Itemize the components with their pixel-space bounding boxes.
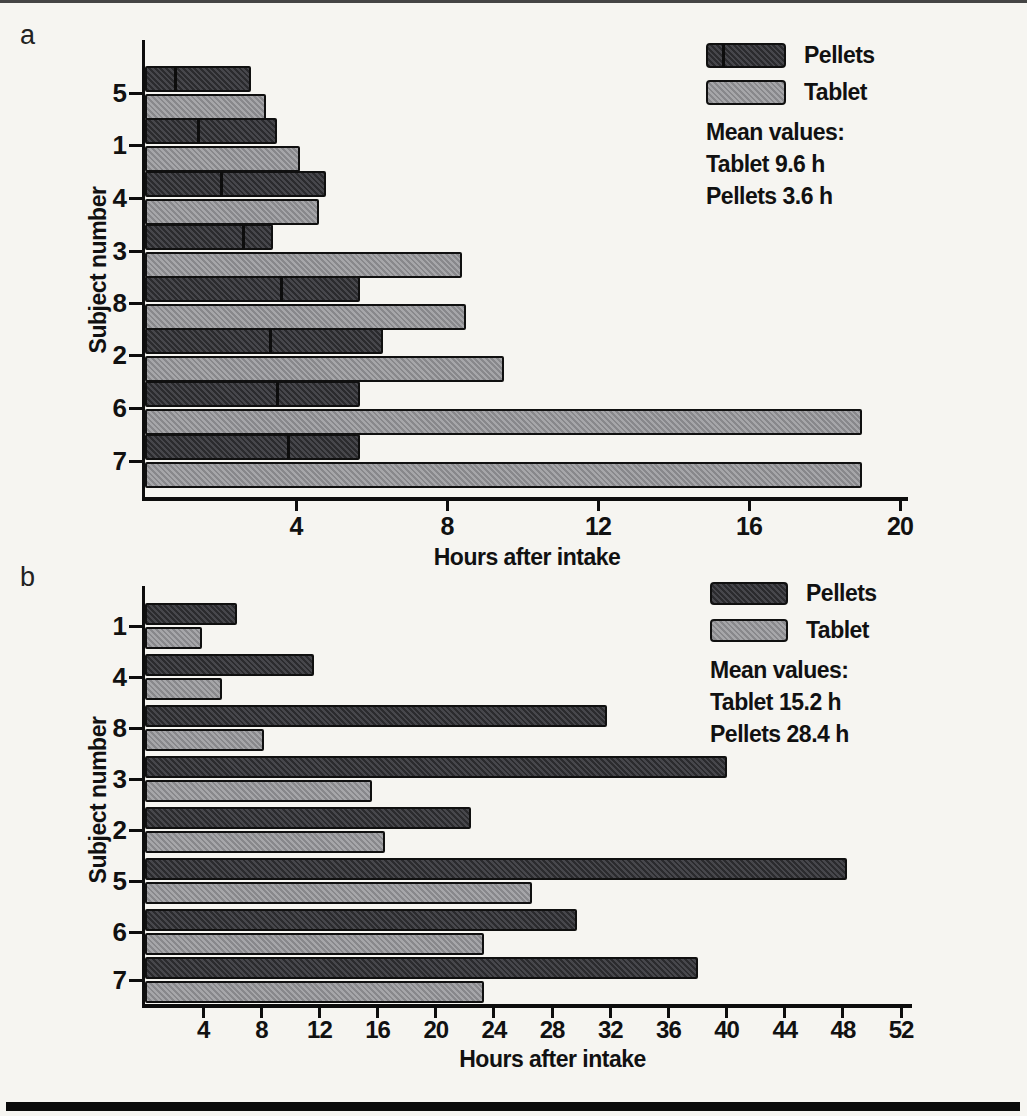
chart-b-mean-values: Mean values: Tablet 15.2 h Pellets 28.4 … (710, 654, 877, 750)
pellets-swatch (710, 582, 788, 605)
legend-row-pellets: Pellets (710, 580, 877, 607)
chart-a-mean-values: Mean values: Tablet 9.6 h Pellets 3.6 h (706, 116, 875, 212)
x-tick-label: 12 (568, 512, 628, 541)
pellets-bar-inner-marker (174, 67, 177, 91)
x-tick-label: 12 (289, 1016, 349, 1044)
subject-label: 7 (83, 445, 127, 477)
x-tick-mark (748, 500, 751, 511)
legend-row-tablet: Tablet (710, 617, 877, 644)
y-tick-mark (129, 727, 144, 730)
y-tick-mark (129, 354, 144, 357)
panel-b-label: b (20, 562, 35, 593)
tablet-bar (145, 252, 462, 278)
x-tick-label: 28 (522, 1016, 582, 1044)
subject-label: 6 (83, 916, 127, 948)
y-tick-mark (129, 778, 144, 781)
y-tick-mark (129, 880, 144, 883)
y-tick-mark (129, 407, 144, 410)
mean-values-heading: Mean values: (706, 116, 875, 148)
pellets-bar (145, 118, 277, 144)
subject-label: 4 (83, 182, 127, 214)
chart-b-x-axis (142, 1004, 912, 1008)
tablet-bar (145, 94, 266, 120)
chart-b-x-axis-title: Hours after intake (380, 1046, 725, 1073)
tablet-bar (145, 882, 532, 904)
mean-pellets-value: Pellets 28.4 h (710, 718, 877, 750)
pellets-bar (145, 603, 237, 625)
x-tick-label: 8 (231, 1016, 291, 1044)
subject-label: 1 (83, 129, 127, 161)
chart-a-x-axis-title: Hours after intake (357, 544, 697, 571)
pellets-bar-inner-marker (287, 435, 290, 459)
pellets-bar (145, 171, 326, 197)
panel-a-label: a (20, 20, 35, 51)
pellets-bar-inner-marker (220, 172, 223, 196)
x-tick-label: 48 (813, 1016, 873, 1044)
chart-a-x-axis (142, 497, 908, 501)
x-tick-label: 44 (755, 1016, 815, 1044)
x-tick-label: 32 (580, 1016, 640, 1044)
x-tick-mark (446, 500, 449, 511)
x-tick-label: 16 (348, 1016, 408, 1044)
subject-label: 3 (83, 235, 127, 267)
pellets-swatch (706, 43, 786, 68)
pellets-bar (145, 66, 251, 92)
y-tick-mark (129, 979, 144, 982)
x-tick-label: 20 (870, 512, 930, 541)
pellets-bar (145, 224, 273, 250)
y-tick-mark (129, 676, 144, 679)
subject-label: 8 (83, 287, 127, 319)
tablet-bar (145, 678, 222, 700)
mean-tablet-value: Tablet 9.6 h (706, 148, 875, 180)
pellets-bar (145, 957, 698, 979)
subject-label: 1 (83, 610, 127, 642)
tablet-bar (145, 409, 862, 435)
figure-page: a b Hours after intake Subject number Ho… (0, 0, 1027, 1116)
mean-pellets-value: Pellets 3.6 h (706, 180, 875, 212)
pellets-bar (145, 705, 607, 727)
x-tick-label: 40 (697, 1016, 757, 1044)
subject-label: 5 (83, 865, 127, 897)
tablet-bar (145, 199, 319, 225)
y-tick-mark (129, 931, 144, 934)
tablet-bar (145, 146, 300, 172)
pellets-bar (145, 807, 471, 829)
x-tick-mark (295, 500, 298, 511)
tablet-bar (145, 462, 862, 488)
mean-values-heading: Mean values: (710, 654, 877, 686)
pellets-bar (145, 756, 727, 778)
pellets-bar-inner-marker (242, 225, 245, 249)
pellets-bar (145, 909, 577, 931)
pellets-bar (145, 654, 314, 676)
pellets-bar-inner-marker (280, 277, 283, 301)
tablet-bar (145, 729, 264, 751)
pellets-bar (145, 858, 847, 880)
y-tick-mark (129, 250, 144, 253)
pellets-swatch-marker (722, 44, 725, 67)
pellets-bar-inner-marker (269, 329, 272, 353)
tablet-bar (145, 933, 484, 955)
pellets-bar (145, 328, 383, 354)
tablet-legend-label: Tablet (806, 617, 869, 644)
chart-a-legend: Pellets Tablet Mean values: Tablet 9.6 h… (706, 42, 875, 212)
pellets-legend-label: Pellets (804, 42, 875, 69)
x-tick-label: 16 (719, 512, 779, 541)
subject-label: 2 (83, 339, 127, 371)
tablet-bar (145, 356, 504, 382)
y-tick-mark (129, 625, 144, 628)
x-tick-label: 36 (638, 1016, 698, 1044)
subject-label: 8 (83, 712, 127, 744)
y-tick-mark (129, 460, 144, 463)
tablet-bar (145, 304, 466, 330)
mean-tablet-value: Tablet 15.2 h (710, 686, 877, 718)
x-tick-label: 4 (173, 1016, 233, 1044)
y-tick-mark (129, 197, 144, 200)
pellets-bar (145, 381, 360, 407)
pellets-bar-inner-marker (276, 382, 279, 406)
subject-label: 4 (83, 661, 127, 693)
x-tick-mark (597, 500, 600, 511)
top-rule (0, 0, 1027, 3)
x-tick-label: 4 (266, 512, 326, 541)
tablet-bar (145, 831, 385, 853)
subject-label: 2 (83, 814, 127, 846)
